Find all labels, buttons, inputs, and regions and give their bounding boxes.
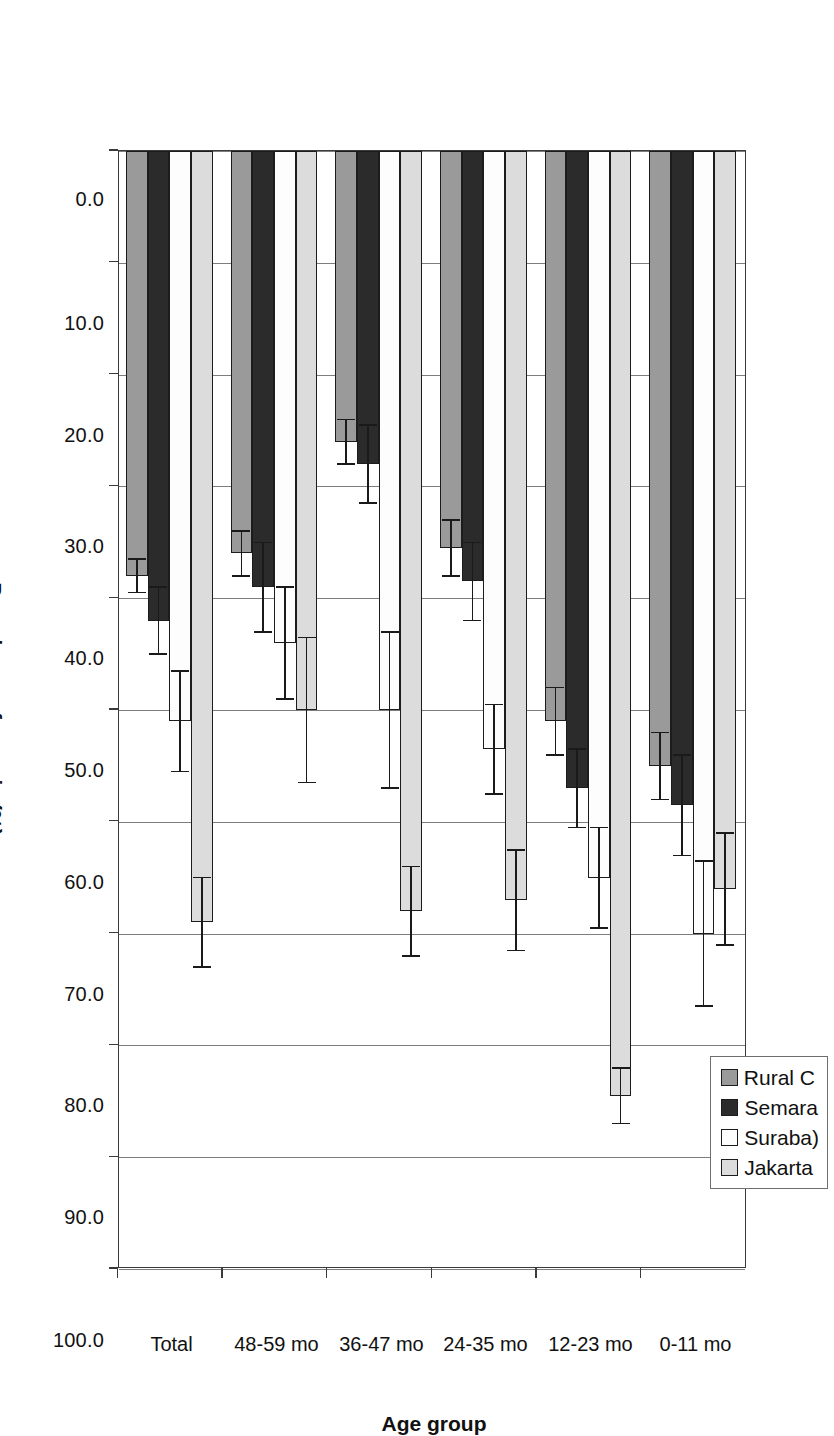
error-bar-cap xyxy=(337,419,355,421)
error-bar-cap xyxy=(673,855,691,857)
legend-swatch xyxy=(721,1069,738,1086)
bar-12-23mo-Surabaya xyxy=(588,151,610,878)
y-tick-label: 30.0 xyxy=(64,535,104,558)
error-bar xyxy=(555,688,557,755)
y-tick-mark xyxy=(109,1044,118,1045)
legend-item-Semara: Semara xyxy=(721,1097,818,1118)
legend-swatch xyxy=(721,1159,738,1176)
error-bar-cap xyxy=(651,799,669,801)
error-bar-cap xyxy=(359,502,377,504)
error-bar-cap xyxy=(149,653,167,655)
legend-label: Semara xyxy=(744,1097,818,1118)
y-tick-label: 60.0 xyxy=(64,871,104,894)
bar-48-59mo-Jakarta xyxy=(296,151,318,710)
bar-24-35mo-Surabaya xyxy=(483,151,505,749)
x-tick-mark xyxy=(221,1268,222,1278)
error-bar-cap xyxy=(359,424,377,426)
error-bar xyxy=(515,850,517,951)
error-bar-cap xyxy=(128,592,146,594)
bar-Total-RuralC xyxy=(126,151,148,576)
x-tick-label-48-59mo: 48-59 mo xyxy=(217,1333,337,1356)
bar-36-47mo-Jakarta xyxy=(400,151,422,911)
legend-label: Jakarta xyxy=(744,1157,813,1178)
error-bar-cap xyxy=(381,787,399,789)
error-bar xyxy=(345,419,347,464)
legend-label: Rural C xyxy=(744,1067,815,1088)
y-tick-label: 100.0 xyxy=(53,1329,104,1352)
error-bar-cap xyxy=(337,463,355,465)
legend-swatch xyxy=(721,1129,738,1146)
error-bar-cap xyxy=(546,754,564,756)
error-bar-cap xyxy=(612,1123,630,1125)
error-bar xyxy=(284,587,286,699)
error-bar xyxy=(410,867,412,956)
error-bar-cap xyxy=(254,631,272,633)
error-bar xyxy=(659,732,661,799)
error-bar xyxy=(306,637,308,782)
error-bar xyxy=(576,749,578,827)
error-bar-cap xyxy=(232,575,250,577)
error-bar-cap xyxy=(716,832,734,834)
x-axis-title: Age group xyxy=(334,1412,534,1436)
error-bar-cap xyxy=(651,732,669,734)
error-bar-cap xyxy=(254,542,272,544)
error-bar-cap xyxy=(128,558,146,560)
error-bar-cap xyxy=(695,860,713,862)
y-tick-mark xyxy=(109,373,118,374)
error-bar xyxy=(201,878,203,967)
plot-area xyxy=(118,150,746,1268)
bar-12-23mo-RuralC xyxy=(545,151,567,721)
error-bar xyxy=(367,425,369,503)
bar-12-23mo-Semarang xyxy=(566,151,588,788)
y-axis-title: Prevalence of anemia (%) xyxy=(0,569,6,849)
error-bar-cap xyxy=(568,748,586,750)
bar-series-container xyxy=(119,151,745,1267)
error-bar-cap xyxy=(485,793,503,795)
error-bar xyxy=(179,671,181,772)
error-bar-cap xyxy=(673,754,691,756)
error-bar xyxy=(450,520,452,576)
x-tick-label-0-11mo: 0-11 mo xyxy=(635,1333,755,1356)
error-bar-cap xyxy=(402,866,420,868)
bar-24-35mo-RuralC xyxy=(440,151,462,548)
legend-label: Suraba) xyxy=(744,1127,819,1148)
bar-36-47mo-Surabaya xyxy=(379,151,401,710)
bar-24-35mo-Jakarta xyxy=(505,151,527,900)
chart-legend: Rural CSemaraSuraba)Jakarta xyxy=(710,1056,828,1189)
error-bar-cap xyxy=(149,586,167,588)
error-bar xyxy=(136,559,138,593)
error-bar xyxy=(493,704,495,793)
y-tick-mark xyxy=(109,708,118,709)
error-bar xyxy=(389,632,391,789)
error-bar-cap xyxy=(298,782,316,784)
bar-0-11mo-RuralC xyxy=(649,151,671,766)
error-bar-cap xyxy=(402,955,420,957)
error-bar-cap xyxy=(507,849,525,851)
bar-0-11mo-Surabaya xyxy=(693,151,715,934)
error-bar-cap xyxy=(463,542,481,544)
x-tick-mark xyxy=(431,1268,432,1278)
error-bar-cap xyxy=(568,827,586,829)
y-tick-mark xyxy=(109,261,118,262)
y-tick-label: 80.0 xyxy=(64,1094,104,1117)
y-tick-label: 50.0 xyxy=(64,759,104,782)
y-tick-mark xyxy=(109,820,118,821)
bar-0-11mo-Semarang xyxy=(671,151,693,805)
error-bar-cap xyxy=(507,950,525,952)
x-tick-mark xyxy=(326,1268,327,1278)
error-bar xyxy=(598,827,600,928)
x-tick-mark xyxy=(117,1268,118,1278)
error-bar-cap xyxy=(716,944,734,946)
error-bar xyxy=(262,542,264,631)
error-bar-cap xyxy=(442,575,460,577)
error-bar-cap xyxy=(546,687,564,689)
error-bar xyxy=(158,587,160,654)
legend-item-Suraba: Suraba) xyxy=(721,1127,819,1148)
error-bar-cap xyxy=(298,637,316,639)
bar-Total-Semarang xyxy=(148,151,170,621)
error-bar xyxy=(681,755,683,856)
x-tick-label-24-35mo: 24-35 mo xyxy=(426,1333,546,1356)
y-tick-label: 40.0 xyxy=(64,647,104,670)
error-bar-cap xyxy=(442,519,460,521)
